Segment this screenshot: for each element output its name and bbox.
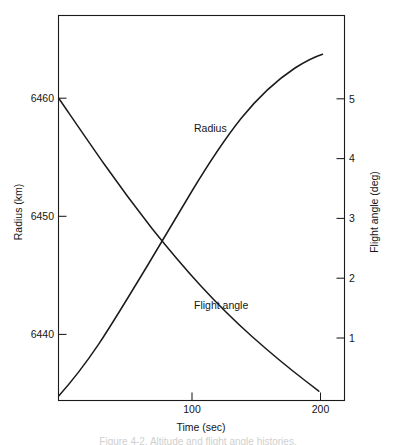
right-tick-label-5: 5 [349,93,355,105]
left-tick-label-6450: 6450 [31,210,55,222]
right-tick-label-2: 2 [349,272,355,284]
bottom-tick-label-200: 200 [312,403,330,415]
figure-caption: Figure 4-2. Altitude and flight angle hi… [0,436,396,445]
y2-axis-title: Flight angle (deg) [368,171,380,253]
y-axis-title: Radius (km) [12,184,24,241]
line-chart: 6460 6450 6440 5 4 3 2 1 100 200 Time (s… [0,0,396,445]
right-tick-label-1: 1 [349,332,355,344]
x-axis-title: Time (sec) [176,421,225,433]
figure-caption-clip: Figure 4-2. Altitude and flight angle hi… [0,436,396,445]
bottom-tick-label-100: 100 [183,403,201,415]
curve-label-flight-angle: Flight angle [194,299,248,311]
left-tick-label-6440: 6440 [31,328,55,340]
plot-frame [59,16,345,401]
curve-label-radius: Radius [194,122,227,134]
right-tick-label-3: 3 [349,212,355,224]
figure-container: 6460 6450 6440 5 4 3 2 1 100 200 Time (s… [0,0,396,445]
left-tick-label-6460: 6460 [31,92,55,104]
right-tick-label-4: 4 [349,152,355,164]
